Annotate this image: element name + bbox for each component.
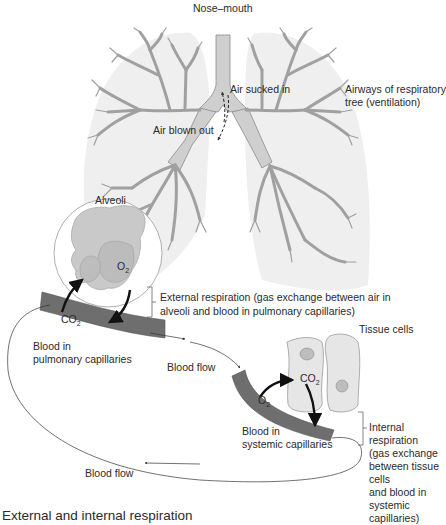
co2-pulmonary-label: CO2 [61,313,81,330]
external-bracket [147,287,156,317]
blood-systemic-line2: systemic capillaries [242,438,332,451]
airways-label-line2: tree (ventilation) [345,96,420,109]
o2-systemic-label: O2 [258,394,270,411]
air-blown-out-label: Air blown out [153,124,214,137]
tissue-cells [287,334,360,412]
o2-alveoli-label: O2 [117,260,129,277]
blood-flow-top-label: Blood flow [167,361,215,374]
blood-flow-bottom-label: Blood flow [85,467,133,480]
nose-mouth-label: Nose–mouth [193,2,253,15]
tissue-cells-label: Tissue cells [359,323,413,336]
blood-systemic-line1: Blood in [242,425,280,438]
diagram-title: External and internal respiration [2,508,193,523]
airways-label-line1: Airways of respiratory [345,83,446,96]
blood-pulmonary-line1: Blood in [33,340,71,353]
tissue-cell-2 [325,334,360,412]
alveoli-label: Alveoli [95,194,126,207]
internal-bracket [358,412,367,445]
external-respiration-line1: External respiration (gas exchange betwe… [160,291,391,304]
co2-tissue-label: CO2 [300,372,320,389]
blood-pulmonary-line2: pulmonary capillaries [33,353,132,366]
alveoli-inset [54,199,162,307]
external-respiration-line2: alveoli and blood in pulmonary capillari… [160,305,355,318]
air-sucked-in-label: Air sucked in [230,83,290,96]
